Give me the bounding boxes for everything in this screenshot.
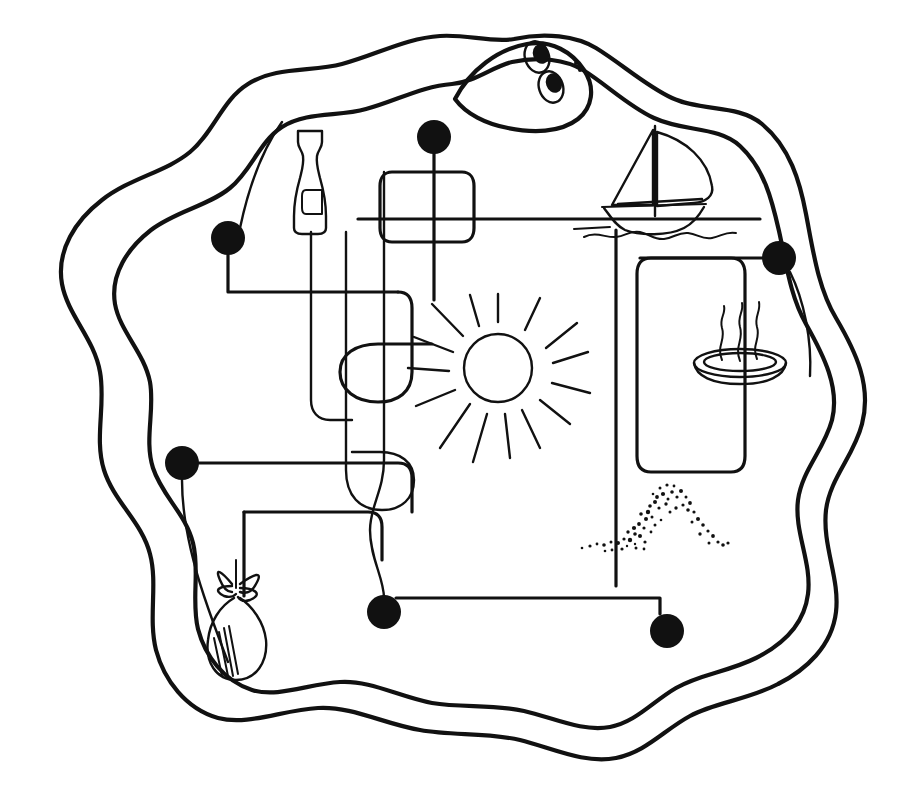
sailboat-icon	[574, 126, 736, 239]
water-line-left	[574, 227, 610, 229]
wire-mid-rounded-path	[340, 292, 432, 402]
wire-network	[182, 122, 810, 662]
wire-midleft-drop	[182, 480, 228, 662]
node-mid-left[interactable]	[165, 446, 199, 480]
nostril-dot	[578, 68, 582, 72]
wire-upperleft-arc	[240, 122, 282, 228]
node-bottom-left[interactable]	[367, 595, 401, 629]
wire-bottom-horizontal	[396, 598, 660, 614]
sun-rays	[408, 294, 590, 462]
node-top[interactable]	[417, 120, 451, 154]
wire-upperleft-branch	[228, 255, 398, 292]
boat-front-sail	[612, 130, 653, 205]
drawing-canvas: Hand-drawn puzzle diagram amoeba-blob-ou…	[0, 0, 923, 785]
wire-long-vertical	[346, 232, 414, 510]
sand-pile-icon	[581, 483, 730, 552]
nostril-dot	[574, 61, 578, 65]
bottle-icon	[294, 131, 326, 234]
node-upper-left[interactable]	[211, 221, 245, 255]
steam-wisp-left	[720, 306, 724, 360]
node-bottom-right[interactable]	[650, 614, 684, 648]
figure-svg	[0, 0, 923, 785]
steaming-dish-icon	[694, 302, 786, 384]
snout-outline	[455, 43, 591, 131]
wire-right-rect	[637, 258, 745, 472]
node-right[interactable]	[762, 241, 796, 275]
sun-icon	[408, 294, 590, 462]
boat-main-sail	[657, 132, 712, 206]
water-waves	[584, 232, 736, 240]
wire-lower-left-rect	[244, 512, 382, 560]
face-with-two-eyes	[455, 38, 591, 131]
wire-loop-top-rect	[380, 172, 474, 242]
sun-disc	[464, 334, 532, 402]
dish-rim-inner	[704, 353, 776, 371]
